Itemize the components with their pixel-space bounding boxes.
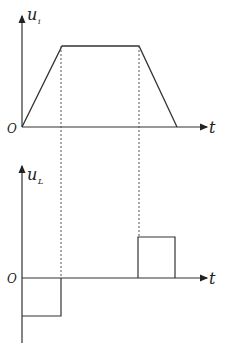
top-x-label: t	[209, 118, 216, 137]
positive-pulse	[138, 237, 175, 278]
top-y-label: u	[27, 5, 37, 24]
bottom-y-label-sub: L	[37, 177, 43, 186]
bottom-origin-label: O	[7, 272, 17, 286]
top-origin-label: O	[7, 122, 17, 136]
trapezoid-waveform	[22, 46, 177, 127]
bottom-x-label: t	[209, 269, 216, 288]
negative-pulse	[22, 278, 61, 316]
bottom-graph: u L t O	[7, 165, 216, 343]
top-y-label-sub: i	[38, 17, 41, 26]
bottom-y-label: u	[27, 165, 37, 184]
top-graph: u i t O	[7, 5, 216, 137]
waveform-diagram: u i t O u L t O	[0, 0, 232, 357]
